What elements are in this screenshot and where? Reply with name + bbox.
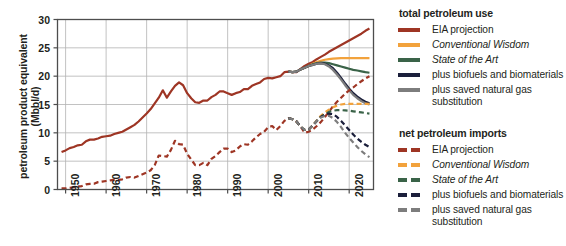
legend-swatch-cell bbox=[398, 143, 432, 152]
legend-swatch-cell bbox=[398, 23, 432, 32]
legend-line-swatch bbox=[398, 73, 420, 77]
legend-swatch-cell bbox=[398, 38, 432, 47]
legend-item-label: plus biofuels and biomaterials bbox=[432, 188, 563, 201]
legend-swatch-cell bbox=[398, 203, 432, 212]
tick-marks-layer bbox=[54, 20, 350, 194]
legend-group-title: total petroleum use bbox=[399, 7, 566, 19]
legend-item[interactable]: Conventional Wisdom bbox=[388, 158, 566, 171]
x-tick-label: 2000 bbox=[273, 173, 284, 196]
x-tick-label: 2010 bbox=[313, 173, 324, 196]
series-line bbox=[62, 29, 370, 153]
y-tick-label: 10 bbox=[24, 128, 50, 139]
x-tick-label: 1960 bbox=[111, 173, 122, 196]
legend-item[interactable]: plus saved natural gas substitution bbox=[388, 203, 566, 227]
y-tick-label: 0 bbox=[24, 185, 50, 196]
legend-line-swatch bbox=[398, 43, 420, 47]
x-tick-label: 2020 bbox=[354, 173, 365, 196]
legend-item[interactable]: EIA projection bbox=[388, 23, 566, 36]
legend-item-label: State of the Art bbox=[432, 53, 498, 66]
x-tick-label: 1970 bbox=[151, 173, 162, 196]
legend-item[interactable]: State of the Art bbox=[388, 53, 566, 66]
x-tick-label: 1980 bbox=[192, 173, 203, 196]
legend-line-swatch bbox=[398, 88, 420, 92]
y-tick-label: 25 bbox=[24, 43, 50, 54]
y-tick-label: 15 bbox=[24, 100, 50, 111]
chart-legend: total petroleum useEIA projectionConvent… bbox=[388, 0, 566, 246]
legend-line-swatch bbox=[398, 208, 420, 212]
grid-layer bbox=[58, 20, 374, 190]
legend-line-swatch bbox=[398, 178, 420, 182]
series-line bbox=[62, 76, 370, 188]
legend-item[interactable]: plus biofuels and biomaterials bbox=[388, 68, 566, 81]
y-tick-label: 5 bbox=[24, 156, 50, 167]
legend-swatch-cell bbox=[398, 53, 432, 62]
series-line bbox=[288, 116, 369, 157]
legend-item[interactable]: plus saved natural gas substitution bbox=[388, 83, 566, 107]
legend-line-swatch bbox=[398, 58, 420, 62]
legend-item-label: plus saved natural gas substitution bbox=[432, 203, 566, 227]
legend-group-total-petroleum-use: total petroleum useEIA projectionConvent… bbox=[388, 7, 566, 109]
legend-swatch-cell bbox=[398, 83, 432, 92]
legend-swatch-cell bbox=[398, 188, 432, 197]
legend-item-label: Conventional Wisdom bbox=[432, 38, 529, 51]
chart-page: petroleum product equivalent (Mbbl/d) 05… bbox=[0, 0, 566, 246]
legend-line-swatch bbox=[398, 193, 420, 197]
legend-item[interactable]: plus biofuels and biomaterials bbox=[388, 188, 566, 201]
legend-swatch-cell bbox=[398, 158, 432, 167]
legend-item-label: Conventional Wisdom bbox=[432, 158, 529, 171]
plot-canvas bbox=[0, 0, 382, 246]
x-tick-label: 1950 bbox=[70, 173, 81, 196]
y-tick-label: 20 bbox=[24, 71, 50, 82]
legend-swatch-cell bbox=[398, 173, 432, 182]
legend-line-swatch bbox=[398, 28, 420, 32]
series-line bbox=[288, 114, 369, 147]
legend-group-net-petroleum-imports: net petroleum importsEIA projectionConve… bbox=[388, 127, 566, 229]
legend-item-label: plus biofuels and biomaterials bbox=[432, 68, 563, 81]
legend-item[interactable]: State of the Art bbox=[388, 173, 566, 186]
legend-item[interactable]: EIA projection bbox=[388, 143, 566, 156]
legend-group-title: net petroleum imports bbox=[399, 127, 566, 139]
legend-item-label: EIA projection bbox=[432, 23, 493, 36]
y-tick-label: 30 bbox=[24, 15, 50, 26]
legend-item-label: State of the Art bbox=[432, 173, 498, 186]
legend-item-label: plus saved natural gas substitution bbox=[432, 83, 566, 107]
legend-line-swatch bbox=[398, 163, 420, 167]
series-layer bbox=[62, 29, 370, 189]
legend-swatch-cell bbox=[398, 68, 432, 77]
x-tick-label: 1990 bbox=[232, 173, 243, 196]
chart-figure: petroleum product equivalent (Mbbl/d) 05… bbox=[0, 0, 382, 246]
legend-line-swatch bbox=[398, 148, 420, 152]
legend-item-label: EIA projection bbox=[432, 143, 493, 156]
legend-item[interactable]: Conventional Wisdom bbox=[388, 38, 566, 51]
